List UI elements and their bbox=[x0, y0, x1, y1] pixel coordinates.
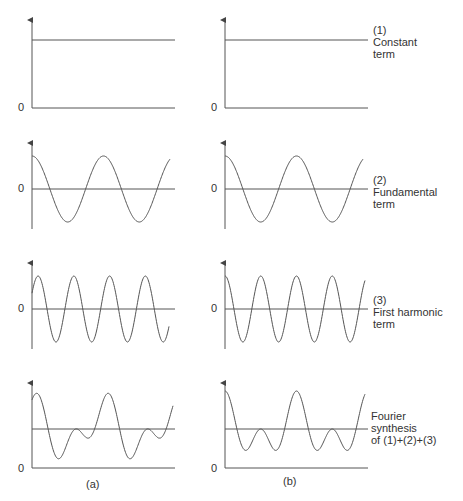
label-line: of (1)+(2)+(3) bbox=[371, 434, 436, 446]
zero-label: 0 bbox=[211, 302, 217, 314]
zero-label: 0 bbox=[18, 462, 24, 474]
zero-label: 0 bbox=[18, 302, 24, 314]
zero-label: 0 bbox=[211, 101, 217, 113]
caption-b: (b) bbox=[283, 475, 296, 487]
panel-label-constant: (1) Constant term bbox=[373, 24, 417, 60]
panel-label-synthesis: Fourier synthesis of (1)+(2)+(3) bbox=[371, 410, 436, 446]
label-line: synthesis bbox=[371, 422, 436, 434]
label-line: (3) bbox=[373, 294, 443, 306]
label-line: Fourier bbox=[371, 410, 436, 422]
zero-label: 0 bbox=[211, 182, 217, 194]
panel-label-harmonic: (3) First harmonic term bbox=[373, 294, 443, 330]
caption-a: (a) bbox=[86, 478, 99, 490]
label-line: Constant bbox=[373, 36, 417, 48]
label-line: (2) bbox=[373, 174, 437, 186]
zero-label: 0 bbox=[211, 462, 217, 474]
zero-label: 0 bbox=[18, 101, 24, 113]
label-line: First harmonic bbox=[373, 306, 443, 318]
label-line: (1) bbox=[373, 24, 417, 36]
panel-label-fundamental: (2) Fundamental term bbox=[373, 174, 437, 210]
zero-label: 0 bbox=[18, 182, 24, 194]
label-line: term bbox=[373, 48, 417, 60]
label-line: term bbox=[373, 198, 437, 210]
synthesis-wave bbox=[32, 393, 173, 459]
label-line: Fundamental bbox=[373, 186, 437, 198]
label-line: term bbox=[373, 318, 443, 330]
synthesis-wave bbox=[225, 391, 365, 450]
